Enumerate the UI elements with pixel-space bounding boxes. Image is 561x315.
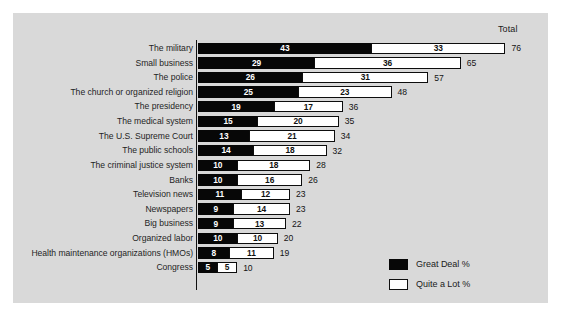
bar-value-quite-a-lot: 31 — [361, 73, 370, 81]
bar-segment-quite-a-lot: 18 — [253, 145, 326, 156]
row-total-value: 34 — [341, 131, 350, 141]
row-category-label: Organized labor — [132, 233, 193, 243]
bar-value-quite-a-lot: 18 — [285, 146, 294, 154]
row-bar-group: 1018 — [198, 160, 311, 171]
bar-value-quite-a-lot: 10 — [253, 234, 262, 242]
bar-value-quite-a-lot: 23 — [340, 88, 349, 96]
bar-segment-quite-a-lot: 23 — [298, 86, 391, 97]
bar-segment-quite-a-lot: 36 — [314, 57, 460, 68]
bar-value-quite-a-lot: 21 — [287, 132, 296, 140]
bar-segment-quite-a-lot: 18 — [237, 160, 310, 171]
row-bar-group: 811 — [198, 247, 274, 258]
row-category-label: Health maintenance organizations (HMOs) — [31, 248, 193, 258]
row-bar-group: 2936 — [198, 57, 461, 68]
chart-row: The U.S. Supreme Court132134 — [0, 130, 561, 145]
row-bar-group: 913 — [198, 218, 286, 229]
bar-segment-quite-a-lot: 5 — [217, 262, 237, 273]
chart-row: The presidency191736 — [0, 100, 561, 115]
chart-row: Big business91322 — [0, 217, 561, 232]
bar-segment-quite-a-lot: 16 — [237, 174, 302, 185]
bar-value-quite-a-lot: 36 — [383, 59, 392, 67]
row-category-label: The medical system — [117, 116, 193, 126]
row-bar-group: 4333 — [198, 43, 506, 54]
row-category-label: The church or organized religion — [70, 87, 193, 97]
row-category-label: The presidency — [135, 101, 193, 111]
chart-row: The medical system152035 — [0, 115, 561, 130]
chart-row: The police263157 — [0, 71, 561, 86]
chart-row: Banks101626 — [0, 174, 561, 189]
row-bar-group: 2523 — [198, 86, 392, 97]
legend-swatch-great-deal — [389, 259, 408, 270]
row-category-label: Television news — [133, 189, 193, 199]
chart-row: The criminal justice system101828 — [0, 159, 561, 174]
bar-segment-great-deal: 5 — [198, 262, 218, 273]
row-bar-group: 914 — [198, 203, 290, 214]
row-bar-group: 1321 — [198, 130, 335, 141]
row-category-label: Congress — [156, 262, 193, 272]
row-bar-group: 1418 — [198, 145, 327, 156]
row-category-label: Big business — [145, 218, 194, 228]
bar-value-great-deal: 19 — [232, 103, 241, 111]
bar-segment-great-deal: 10 — [198, 160, 239, 171]
row-total-value: 32 — [333, 146, 342, 156]
bar-value-quite-a-lot: 12 — [261, 190, 270, 198]
bar-value-great-deal: 5 — [205, 263, 210, 271]
bar-value-quite-a-lot: 14 — [257, 205, 266, 213]
row-total-value: 23 — [296, 204, 305, 214]
row-total-value: 20 — [284, 233, 293, 243]
bar-segment-great-deal: 9 — [198, 218, 235, 229]
bar-value-great-deal: 10 — [213, 161, 222, 169]
bar-segment-great-deal: 14 — [198, 145, 255, 156]
bar-segment-quite-a-lot: 12 — [241, 189, 290, 200]
bar-segment-great-deal: 15 — [198, 116, 259, 127]
chart-row: The military433376 — [0, 42, 561, 57]
bar-value-great-deal: 43 — [280, 44, 289, 52]
legend-item-quite-a-lot: Quite a Lot % — [389, 276, 470, 292]
legend-swatch-quite-a-lot — [389, 279, 408, 290]
chart-row: The church or organized religion252348 — [0, 86, 561, 101]
bar-value-great-deal: 13 — [219, 132, 228, 140]
row-category-label: Banks — [169, 175, 193, 185]
bar-segment-great-deal: 10 — [198, 174, 239, 185]
bar-value-great-deal: 26 — [246, 73, 255, 81]
bar-value-quite-a-lot: 13 — [255, 220, 264, 228]
row-category-label: The police — [154, 72, 193, 82]
row-total-value: 36 — [349, 102, 358, 112]
bar-segment-quite-a-lot: 21 — [249, 130, 334, 141]
bar-value-great-deal: 10 — [213, 234, 222, 242]
row-category-label: The U.S. Supreme Court — [99, 131, 193, 141]
row-category-label: Small business — [135, 58, 193, 68]
bar-segment-quite-a-lot: 33 — [371, 43, 505, 54]
bar-value-quite-a-lot: 33 — [434, 44, 443, 52]
row-bar-group: 55 — [198, 262, 238, 273]
row-bar-group: 1112 — [198, 189, 290, 200]
bar-value-great-deal: 11 — [216, 190, 225, 198]
row-category-label: The public schools — [122, 145, 193, 155]
bar-segment-quite-a-lot: 31 — [302, 72, 428, 83]
legend-label-great-deal: Great Deal % — [416, 259, 470, 269]
row-category-label: The criminal justice system — [90, 160, 193, 170]
total-column-header: Total — [498, 24, 518, 34]
bar-segment-great-deal: 11 — [198, 189, 243, 200]
row-total-value: 26 — [308, 175, 317, 185]
bar-value-great-deal: 9 — [214, 220, 219, 228]
bar-value-quite-a-lot: 18 — [269, 161, 278, 169]
chart-row: Congress5510 — [0, 261, 561, 276]
row-total-value: 57 — [434, 73, 443, 83]
chart-legend: Great Deal % Quite a Lot % — [389, 256, 470, 296]
chart-row: Television news111223 — [0, 188, 561, 203]
bar-value-great-deal: 8 — [211, 249, 216, 257]
bar-segment-great-deal: 9 — [198, 203, 235, 214]
bar-segment-great-deal: 26 — [198, 72, 304, 83]
row-total-value: 76 — [511, 43, 520, 53]
bar-segment-great-deal: 29 — [198, 57, 316, 68]
row-category-label: Newspapers — [145, 204, 193, 214]
row-bar-group: 1016 — [198, 174, 303, 185]
bar-value-quite-a-lot: 11 — [247, 249, 256, 257]
row-total-value: 35 — [345, 116, 354, 126]
bar-segment-great-deal: 10 — [198, 233, 239, 244]
row-total-value: 19 — [280, 248, 289, 258]
bar-value-quite-a-lot: 20 — [294, 117, 303, 125]
row-bar-group: 1010 — [198, 233, 278, 244]
row-bar-group: 1917 — [198, 101, 343, 112]
